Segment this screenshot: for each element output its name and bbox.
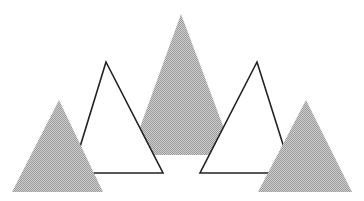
triangles-illustration [0,0,364,201]
center-shaded-triangle [130,14,234,155]
